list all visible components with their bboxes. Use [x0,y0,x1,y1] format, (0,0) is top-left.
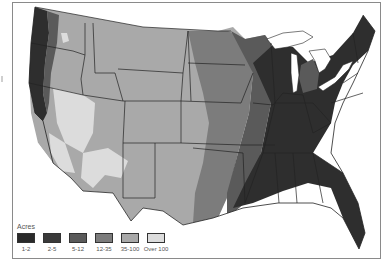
legend-swatch [121,233,139,243]
legend-label: 5-12 [72,246,84,252]
legend-item-5-12: 5-12 [69,233,87,252]
legend-item-1-2: 1-2 [17,233,35,252]
legend-label: Over 100 [144,246,169,252]
legend: Acres 1-2 2-5 5-12 12-35 35-100 [17,223,165,252]
lake-superior [267,31,313,49]
legend-item-2-5: 2-5 [43,233,61,252]
legend-label: 35-100 [121,246,140,252]
legend-label: 1-2 [22,246,31,252]
legend-swatch [69,233,87,243]
edge-mark [1,76,3,82]
map-frame: Acres 1-2 2-5 5-12 12-35 35-100 [12,2,381,259]
legend-swatch [147,233,165,243]
legend-swatch [43,233,61,243]
legend-items: 1-2 2-5 5-12 12-35 35-100 Over 100 [17,233,165,252]
legend-swatch [95,233,113,243]
legend-title: Acres [17,223,165,230]
legend-item-over-100: Over 100 [147,233,165,252]
legend-item-35-100: 35-100 [121,233,139,252]
legend-item-12-35: 12-35 [95,233,113,252]
legend-label: 12-35 [96,246,111,252]
legend-label: 2-5 [48,246,57,252]
us-map [13,3,381,259]
legend-swatch [17,233,35,243]
